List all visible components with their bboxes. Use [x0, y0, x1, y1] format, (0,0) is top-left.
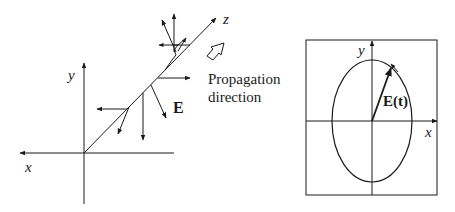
- z-axis-label: z: [222, 11, 229, 27]
- right-panel-ellipse: [306, 40, 437, 195]
- propagation-arrow-icon: [207, 43, 224, 60]
- z-axis: [84, 18, 216, 153]
- propagation-label-line1: Propagation: [208, 71, 281, 87]
- field-label-e-t: E(t): [383, 93, 408, 110]
- left-panel-wave: [20, 14, 224, 204]
- field-vector-2: [118, 107, 129, 134]
- right-x-axis-label: x: [424, 124, 432, 140]
- right-y-axis-label: y: [356, 42, 365, 58]
- y-axis-label: y: [66, 67, 75, 83]
- x-axis-label: x: [24, 159, 32, 175]
- polarization-diagram: x y z E Propagation direction y x E(t): [0, 0, 455, 212]
- field-label-e: E: [173, 99, 184, 116]
- propagation-label-line2: direction: [208, 89, 262, 105]
- field-vector-4: [151, 85, 166, 118]
